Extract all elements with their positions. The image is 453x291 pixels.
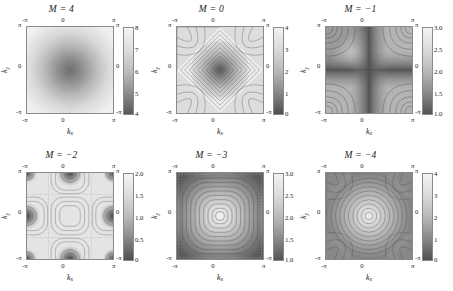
y-axis-label: ky: [150, 213, 159, 219]
colorbar-tick: 0.5: [135, 236, 144, 243]
colorbar-tick: 4: [135, 110, 138, 117]
ytick-right-middle: 0: [116, 62, 119, 69]
plot-area: [26, 26, 114, 114]
ytick-left-top: π: [168, 167, 171, 174]
colorbar-tick: 1.5: [135, 192, 144, 199]
xtick-bottom-center: 0: [61, 262, 64, 269]
panel-m-minus-4: M = −4 -π 0 π -π 0 π π 0 -π π 0 -π: [299, 146, 450, 291]
ytick-right-bottom: -π: [415, 108, 421, 115]
xtick-bottom-right: π: [262, 116, 265, 123]
xtick-bottom-center: 0: [211, 262, 214, 269]
colorbar-tick: 1: [434, 236, 437, 243]
colorbar-tick: 6: [135, 68, 138, 75]
ytick-right-top: π: [266, 21, 269, 28]
colorbar-gradient: [423, 28, 432, 114]
ytick-left-top: π: [18, 167, 21, 174]
panel-m-minus-3: M = −3 -π 0 π -π 0 π π 0 -π π 0 -π: [150, 146, 301, 291]
colorbar-tick: 3.0: [285, 170, 294, 177]
panel-title: M = −2: [0, 150, 123, 160]
xtick-bottom-right: π: [112, 116, 115, 123]
heatmap-canvas: [26, 26, 114, 114]
heatmap-canvas: [176, 172, 264, 260]
colorbar-tick: 5: [135, 90, 138, 97]
xtick-bottom-center: 0: [61, 116, 64, 123]
ytick-right-bottom: -π: [266, 254, 272, 261]
ytick-left-bottom: -π: [166, 254, 172, 261]
y-axis-label: ky: [0, 67, 9, 73]
colorbar-ticks: 3.0 2.5 2.0 1.5 1.0: [434, 24, 453, 116]
colorbar-gradient: [274, 174, 283, 260]
xtick-bottom-right: π: [411, 262, 414, 269]
colorbar-tick: 1.0: [135, 214, 144, 221]
ytick-right-bottom: -π: [266, 108, 272, 115]
y-axis-label: ky: [299, 67, 308, 73]
panel-m-0: M = 0 -π 0 π -π 0 π π 0 -π π 0 -π: [150, 0, 301, 145]
heatmap-canvas: [325, 172, 413, 260]
plot-area: [325, 26, 413, 114]
colorbar-tick: 2.0: [285, 214, 294, 221]
ytick-left-top: π: [168, 21, 171, 28]
plot-area: [325, 172, 413, 260]
plot-area: [176, 26, 264, 114]
y-axis-label: ky: [299, 213, 308, 219]
colorbar-tick: 2: [285, 68, 288, 75]
colorbar-gradient: [124, 174, 133, 260]
xtick-top-center: 0: [61, 16, 64, 23]
colorbar-tick: 8: [135, 24, 138, 31]
colorbar-gradient: [124, 28, 133, 114]
ytick-right-middle: 0: [266, 208, 269, 215]
colorbar-tick: 4: [434, 170, 437, 177]
colorbar-tick: 1.0: [285, 256, 294, 263]
ytick-right-middle: 0: [266, 62, 269, 69]
xtick-top-center: 0: [211, 162, 214, 169]
xtick-bottom-right: π: [112, 262, 115, 269]
ytick-left-top: π: [317, 167, 320, 174]
ytick-right-top: π: [415, 167, 418, 174]
ytick-left-middle: 0: [168, 208, 171, 215]
x-axis-label: kx: [366, 127, 372, 136]
x-axis-label: kx: [217, 127, 223, 136]
x-axis-label: kx: [217, 273, 223, 282]
xtick-top-right: π: [411, 16, 414, 23]
y-axis-label: ky: [0, 213, 9, 219]
colorbar-tick: 4: [285, 24, 288, 31]
xtick-top-right: π: [262, 16, 265, 23]
ytick-left-middle: 0: [168, 62, 171, 69]
ytick-left-bottom: -π: [166, 108, 172, 115]
plot-area: [176, 172, 264, 260]
colorbar-tick: 1.5: [285, 236, 294, 243]
ytick-left-middle: 0: [18, 62, 21, 69]
xtick-bottom-center: 0: [360, 262, 363, 269]
colorbar-tick: 2.0: [135, 170, 144, 177]
ytick-right-middle: 0: [116, 208, 119, 215]
xtick-top-center: 0: [211, 16, 214, 23]
xtick-top-center: 0: [360, 162, 363, 169]
ytick-right-top: π: [415, 21, 418, 28]
panel-title: M = −1: [299, 4, 422, 14]
xtick-top-right: π: [112, 16, 115, 23]
panel-m-minus-1: M = −1 -π 0 π -π 0 π π 0 -π π 0 -π: [299, 0, 450, 145]
y-axis-label: ky: [150, 67, 159, 73]
x-axis-label: kx: [67, 127, 73, 136]
ytick-left-bottom: -π: [16, 108, 22, 115]
xtick-bottom-right: π: [411, 116, 414, 123]
ytick-right-middle: 0: [415, 208, 418, 215]
plot-area: [26, 172, 114, 260]
colorbar-ticks: 4 3 2 1 0: [434, 170, 453, 262]
heatmap-canvas: [26, 172, 114, 260]
panel-m-4: M = 4 -π 0 π -π 0 π π 0 -π π 0 -π: [0, 0, 151, 145]
colorbar-tick: 1: [285, 90, 288, 97]
xtick-bottom-left: -π: [321, 116, 327, 123]
colorbar-tick: 3: [434, 192, 437, 199]
ytick-left-top: π: [317, 21, 320, 28]
xtick-bottom-center: 0: [360, 116, 363, 123]
xtick-bottom-left: -π: [22, 116, 28, 123]
colorbar-tick: 0: [434, 256, 437, 263]
ytick-left-middle: 0: [317, 208, 320, 215]
colorbar-tick: 0: [285, 110, 288, 117]
colorbar-gradient: [423, 174, 432, 260]
xtick-top-left: -π: [321, 162, 327, 169]
xtick-top-left: -π: [172, 162, 178, 169]
colorbar-tick: 1.0: [434, 110, 443, 117]
ytick-left-top: π: [18, 21, 21, 28]
